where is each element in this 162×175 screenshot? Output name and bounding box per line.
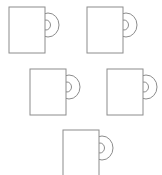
mug-body-rect	[63, 130, 99, 175]
mug-body-rect	[107, 69, 143, 115]
mug-2-2	[107, 69, 157, 115]
mug-diagram-canvas	[0, 0, 162, 175]
mug-group	[9, 7, 157, 175]
mug-1-1	[9, 7, 59, 53]
mug-diagram-svg	[0, 0, 162, 175]
mug-2-1	[30, 69, 80, 115]
mug-body-rect	[9, 7, 45, 53]
mug-body-rect	[87, 7, 123, 53]
mug-3-1	[63, 130, 113, 175]
mug-body-rect	[30, 69, 66, 115]
mug-1-2	[87, 7, 137, 53]
